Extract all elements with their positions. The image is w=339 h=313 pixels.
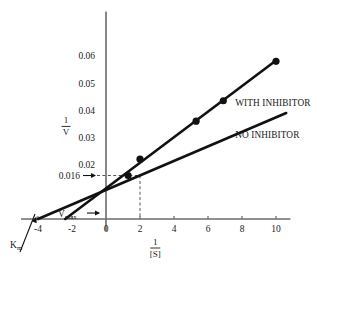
x-axis-tick-label: 10: [271, 224, 281, 234]
y-axis-tick-label: 0.05: [78, 79, 95, 89]
vmax-arrowhead: [95, 211, 100, 216]
y-axis-tick-label: 0.03: [78, 133, 95, 143]
y-axis-tick-labels: 0.020.030.040.050.06: [78, 51, 95, 170]
vmax-label-subscript: max: [65, 213, 77, 220]
lineweaver-burk-chart: -4-20246810 0.020.030.040.050.06 WITH IN…: [0, 0, 339, 313]
y-axis-tick-label: 0.04: [78, 106, 95, 116]
x-axis-label-numerator: 1: [153, 237, 158, 247]
x-axis-tick-label: 0: [104, 224, 109, 234]
highlight-value-callout: 0.016: [59, 171, 96, 181]
series-label-with-inhibitor: WITH INHIBITOR: [235, 98, 311, 108]
y-axis-label: 1 V: [62, 115, 71, 137]
series-label-no-inhibitor: NO INHIBITOR: [235, 130, 300, 140]
series-line: [38, 113, 286, 219]
x-axis-tick-label: 6: [206, 224, 211, 234]
highlight-value-label: 0.016: [59, 171, 81, 181]
x-axis-label-denominator: [S]: [150, 249, 161, 259]
chart-canvas: -4-20246810 0.020.030.040.050.06 WITH IN…: [0, 0, 339, 313]
y-axis-tick-label: 0.02: [78, 160, 95, 170]
x-axis-tick-label: 2: [138, 224, 143, 234]
y-axis-label-denominator: V: [63, 127, 70, 137]
x-axis-tick-label: 4: [172, 224, 177, 234]
x-axis-label: 1 [S]: [150, 237, 161, 259]
x-axis-tick-label: -2: [68, 224, 76, 234]
y-axis-label-numerator: 1: [64, 115, 69, 125]
data-point: [125, 172, 132, 179]
y-axis-tick-label: 0.06: [78, 51, 95, 61]
guide-lines: [97, 176, 140, 219]
axes-group: [21, 12, 290, 231]
x-axis-tick-label: 8: [240, 224, 245, 234]
data-point: [220, 97, 227, 104]
data-point: [136, 156, 143, 163]
vmax-label: Vmax: [58, 209, 77, 220]
x-axis-tick-label: -4: [34, 224, 42, 234]
data-point: [193, 118, 200, 125]
highlight-value-arrowhead: [91, 173, 96, 178]
data-point: [272, 58, 279, 65]
